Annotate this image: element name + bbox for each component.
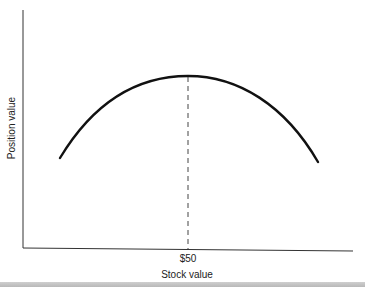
chart: $50 Stock value Position value — [0, 0, 365, 287]
x-axis-label: Stock value — [161, 269, 213, 280]
position-value-curve — [60, 76, 318, 162]
y-axis-label: Position value — [6, 96, 17, 159]
bottom-strip — [0, 282, 365, 287]
x-tick-50: $50 — [180, 253, 197, 264]
